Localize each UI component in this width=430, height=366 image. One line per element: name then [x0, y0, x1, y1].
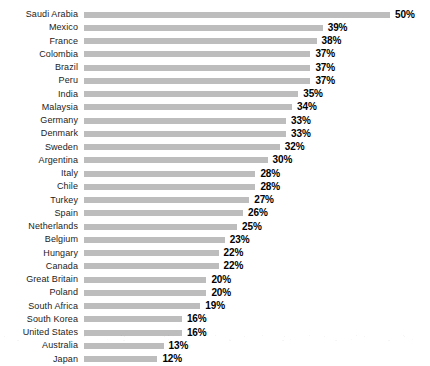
bar-row: Belgium23% [0, 233, 430, 246]
category-label: Hungary [0, 249, 78, 258]
category-label: Turkey [0, 196, 78, 205]
bar-row: Japan12% [0, 353, 430, 366]
bar-row: Italy28% [0, 167, 430, 180]
bar [84, 263, 219, 269]
bar [84, 12, 390, 18]
bar-row: Malaysia34% [0, 101, 430, 114]
bar-track: 30% [84, 154, 430, 167]
value-label: 50% [395, 10, 415, 20]
bar-track: 28% [84, 180, 430, 193]
category-label: Chile [0, 182, 78, 191]
value-label: 32% [285, 142, 305, 152]
bar-track: 20% [84, 273, 430, 286]
category-label: Malaysia [0, 103, 78, 112]
value-label: 23% [230, 235, 250, 245]
bar-track: 37% [84, 74, 430, 87]
bar-track: 39% [84, 21, 430, 34]
bar-track: 28% [84, 167, 430, 180]
bar [84, 171, 255, 177]
value-label: 35% [303, 89, 323, 99]
bar-row: Germany33% [0, 114, 430, 127]
value-label: 16% [187, 328, 207, 338]
value-label: 26% [248, 208, 268, 218]
value-label: 28% [260, 182, 280, 192]
bar-rows: Saudi Arabia50%Mexico39%France38%Colombi… [0, 8, 430, 366]
category-label: Colombia [0, 50, 78, 59]
bar [84, 131, 286, 137]
bar-track: 23% [84, 233, 430, 246]
bar [84, 330, 182, 336]
bar-row: Netherlands25% [0, 220, 430, 233]
bar-track: 13% [84, 339, 430, 352]
category-label: Spain [0, 209, 78, 218]
category-label: United States [0, 328, 78, 337]
bar-track: 20% [84, 286, 430, 299]
bar [84, 78, 310, 84]
category-label: India [0, 90, 78, 99]
category-label: Sweden [0, 143, 78, 152]
category-label: Mexico [0, 23, 78, 32]
bar-track: 19% [84, 300, 430, 313]
value-label: 39% [328, 23, 348, 33]
bar-track: 32% [84, 141, 430, 154]
bar [84, 356, 157, 362]
bar [84, 144, 280, 150]
bar-row: United States16% [0, 326, 430, 339]
category-label: Denmark [0, 129, 78, 138]
bar-track: 25% [84, 220, 430, 233]
bar-row: France38% [0, 35, 430, 48]
bar [84, 277, 206, 283]
category-label: Belgium [0, 235, 78, 244]
bar-row: Canada22% [0, 260, 430, 273]
bar [84, 197, 249, 203]
bar [84, 25, 323, 31]
bar [84, 118, 286, 124]
category-label: Peru [0, 76, 78, 85]
value-label: 19% [205, 301, 225, 311]
bar-track: 22% [84, 247, 430, 260]
value-label: 30% [273, 155, 293, 165]
value-label: 34% [297, 102, 317, 112]
bar-row: Spain26% [0, 207, 430, 220]
bar-track: 37% [84, 48, 430, 61]
bar [84, 65, 310, 71]
bar [84, 343, 164, 349]
bar-track: 26% [84, 207, 430, 220]
bar-track: 34% [84, 101, 430, 114]
bar [84, 210, 243, 216]
bar-row: South Korea16% [0, 313, 430, 326]
category-label: Germany [0, 116, 78, 125]
category-label: Netherlands [0, 222, 78, 231]
category-label: Argentina [0, 156, 78, 165]
bar-row: Australia13% [0, 339, 430, 352]
bar-track: 38% [84, 35, 430, 48]
value-label: 13% [169, 341, 189, 351]
bar-track: 22% [84, 260, 430, 273]
bar [84, 290, 206, 296]
value-label: 20% [211, 288, 231, 298]
bar-row: Chile28% [0, 180, 430, 193]
value-label: 12% [162, 354, 182, 364]
value-label: 22% [224, 248, 244, 258]
bar [84, 38, 317, 44]
bar-track: 35% [84, 88, 430, 101]
value-label: 25% [242, 222, 262, 232]
bar-row: Colombia37% [0, 48, 430, 61]
value-label: 33% [291, 116, 311, 126]
category-label: Australia [0, 341, 78, 350]
value-label: 38% [322, 36, 342, 46]
bar [84, 104, 292, 110]
bar [84, 237, 225, 243]
bar-row: Peru37% [0, 74, 430, 87]
value-label: 20% [211, 275, 231, 285]
category-label: France [0, 37, 78, 46]
value-label: 33% [291, 129, 311, 139]
bar-row: Saudi Arabia50% [0, 8, 430, 21]
value-label: 37% [315, 63, 335, 73]
category-label: Canada [0, 262, 78, 271]
bar-row: India35% [0, 88, 430, 101]
value-label: 22% [224, 261, 244, 271]
bar [84, 157, 268, 163]
category-label: South Korea [0, 315, 78, 324]
